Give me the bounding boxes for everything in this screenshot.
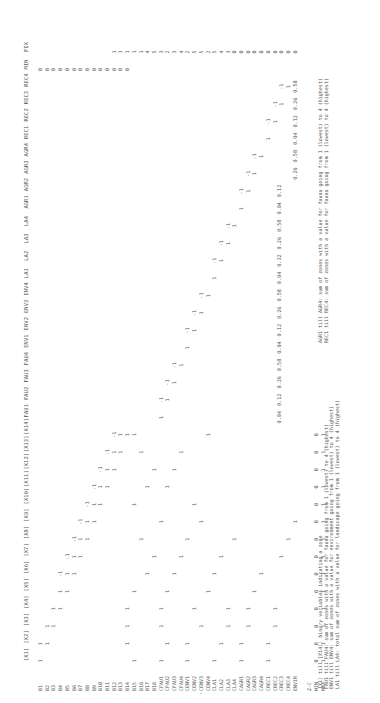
matrix-cell: 1 xyxy=(226,604,231,614)
matrix-cell: 1 xyxy=(65,569,70,579)
footnote: LA1 till LA4: total sum of zones with a … xyxy=(335,400,341,689)
matrix-cell: 1 xyxy=(239,204,244,214)
fix-col-cell: 0 xyxy=(273,47,278,57)
column-header: ENV4 xyxy=(24,282,29,295)
matrix-cell: 1 xyxy=(72,569,77,579)
matrix-cell: 1 xyxy=(152,465,157,475)
row-label: B3 xyxy=(51,663,56,691)
matrix-cell: 1 xyxy=(232,534,237,544)
fix-col-cell: 2 xyxy=(165,47,170,57)
zc-value: 0.12 xyxy=(277,324,282,337)
matrix-cell: 1 xyxy=(199,517,204,527)
column-header: LA3 xyxy=(24,233,29,243)
zc-value: 0.12 xyxy=(277,254,282,267)
column-header: [X9] xyxy=(24,508,29,521)
matrix-cell: 1 xyxy=(125,621,130,631)
column-header: LA2 xyxy=(24,251,29,261)
matrix-cell: 1 xyxy=(179,360,184,370)
zc-value: 0.26 xyxy=(293,98,298,111)
matrix-cell: 1 xyxy=(266,134,271,144)
fix-col-cell: 1 xyxy=(125,47,130,57)
matrix-cell-negative: -1 xyxy=(266,117,271,127)
row-label: CENV4 xyxy=(206,663,211,691)
matrix-cell: 1 xyxy=(172,465,177,475)
matrix-cell: 1 xyxy=(145,482,150,492)
fix-col-cell: 3 xyxy=(226,47,231,57)
matrix-cell: 1 xyxy=(98,482,103,492)
min-col-cell: 0 xyxy=(98,64,103,74)
column-header: [X13] xyxy=(24,435,29,452)
min-col-cell: 0 xyxy=(72,64,77,74)
row-label: B12 xyxy=(112,663,117,691)
row-label: B2 xyxy=(45,663,50,691)
zc-value: 0.12 xyxy=(293,115,298,128)
matrix-cell: 1 xyxy=(246,621,251,631)
matrix-cell: 1 xyxy=(125,430,130,440)
column-header: AGR4 xyxy=(24,143,29,156)
matrix-cell: 1 xyxy=(132,499,137,509)
matrix-cell: 1 xyxy=(85,517,90,527)
matrix-cell: 1 xyxy=(145,569,150,579)
matrix-cell: 1 xyxy=(259,569,264,579)
matrix-cell-negative: -1 xyxy=(212,256,217,266)
matrix-cell: 1 xyxy=(259,151,264,161)
column-header: [X8] xyxy=(24,526,29,539)
row-label: B8 xyxy=(85,663,90,691)
row-label: CREC1 xyxy=(266,663,271,691)
fix-col-cell: 0 xyxy=(232,47,237,57)
matrix-cell: 1 xyxy=(286,534,291,544)
column-header: AGR3 xyxy=(24,160,29,173)
fix-col-cell: 0 xyxy=(286,47,291,57)
matrix-cell: 1 xyxy=(85,534,90,544)
column-header: [X14] xyxy=(24,418,29,435)
row-label: CREC4 xyxy=(286,663,291,691)
column-header: [X11] xyxy=(24,470,29,487)
min-col-cell: 0 xyxy=(118,64,123,74)
zc-value: 0.26 xyxy=(277,376,282,389)
row-label: CENV2 xyxy=(192,663,197,691)
row-label: CFAU4 xyxy=(179,663,184,691)
row-label: CAGR1 xyxy=(239,663,244,691)
zc-value: 0.04 xyxy=(277,411,282,424)
matrix-cell-negative: -1 xyxy=(199,291,204,301)
matrix-cell: -1 xyxy=(65,552,70,562)
column-header: FIX xyxy=(24,42,29,52)
min-col-cell: 0 xyxy=(38,64,43,74)
matrix-cell: 1 xyxy=(246,604,251,614)
column-header: [X2] xyxy=(24,630,29,643)
matrix-cell: 1 xyxy=(252,169,257,179)
matrix-cell: 1 xyxy=(185,534,190,544)
matrix-cell: 1 xyxy=(293,517,298,527)
matrix-cell: 1 xyxy=(219,256,224,266)
matrix-cell: 1 xyxy=(273,604,278,614)
zc-value: 0.58 xyxy=(277,220,282,233)
matrix-cell-negative: -1 xyxy=(185,325,190,335)
fix-col-cell: 0 xyxy=(293,47,298,57)
matrix-cell: 1 xyxy=(38,639,43,649)
matrix-cell-negative: -1 xyxy=(159,395,164,405)
fix-col-cell: 4 xyxy=(219,47,224,57)
matrix-cell: 1 xyxy=(58,604,63,614)
column-header: [X5] xyxy=(24,578,29,591)
min-col-cell: 0 xyxy=(125,64,130,74)
matrix-cell: -1 xyxy=(92,482,97,492)
matrix-cell: 1 xyxy=(139,447,144,457)
min-col-cell: 0 xyxy=(51,64,56,74)
row-label: ENVIR xyxy=(293,663,298,691)
matrix-cell-negative: -1 xyxy=(192,308,197,318)
fix-col-cell: 3 xyxy=(159,47,164,57)
row-label: B1 xyxy=(38,663,43,691)
min-col-cell: 0 xyxy=(92,64,97,74)
matrix-cell: 1 xyxy=(252,586,257,596)
matrix-cell-negative: -1 xyxy=(239,186,244,196)
min-col-cell: 0 xyxy=(112,64,117,74)
zc-value: 0.58 xyxy=(277,289,282,302)
matrix-cell: 1 xyxy=(159,656,164,666)
zc-value: 0.04 xyxy=(277,202,282,215)
matrix-cell: 1 xyxy=(232,221,237,231)
column-header: FAU2 xyxy=(24,387,29,400)
matrix-cell: 1 xyxy=(172,378,177,388)
zc-value: 0.04 xyxy=(277,272,282,285)
matrix-cell: 1 xyxy=(165,482,170,492)
zc-value: 0.26 xyxy=(277,307,282,320)
